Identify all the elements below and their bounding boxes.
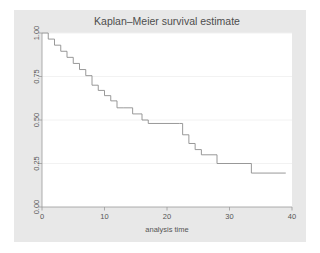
y-tick-label: 0.50 bbox=[32, 113, 41, 128]
x-tick-label: 40 bbox=[288, 212, 296, 221]
x-axis-ticks bbox=[42, 207, 292, 211]
kaplan-meier-chart: 010203040 0.000.250.500.751.00 Kaplan–Me… bbox=[14, 10, 306, 242]
x-axis-title: analysis time bbox=[145, 225, 188, 234]
x-tick-label: 30 bbox=[225, 212, 233, 221]
y-tick-label: 1.00 bbox=[32, 26, 41, 41]
y-tick-label: 0.75 bbox=[32, 69, 41, 84]
x-tick-label: 0 bbox=[40, 212, 44, 221]
y-tick-label: 0.25 bbox=[32, 156, 41, 171]
x-tick-label: 20 bbox=[163, 212, 171, 221]
x-axis-tick-labels: 010203040 bbox=[40, 212, 296, 221]
x-tick-label: 10 bbox=[100, 212, 108, 221]
figure-canvas: 010203040 0.000.250.500.751.00 Kaplan–Me… bbox=[14, 10, 306, 242]
chart-title: Kaplan–Meier survival estimate bbox=[94, 15, 240, 27]
y-axis-tick-labels: 0.000.250.500.751.00 bbox=[32, 26, 41, 215]
y-tick-label: 0.00 bbox=[32, 200, 41, 215]
